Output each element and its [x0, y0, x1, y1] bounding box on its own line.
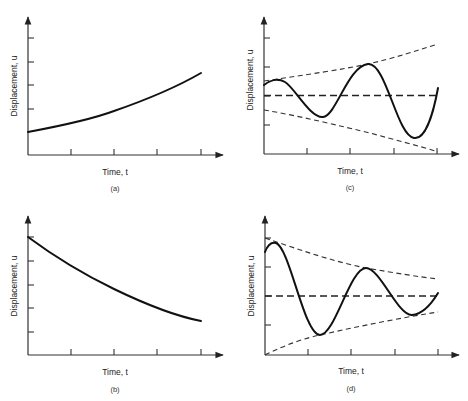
y-axis-label: Displacement, u [9, 55, 19, 116]
panel-c: Time, t (c) Displacement, u [245, 17, 459, 192]
panel-caption: (d) [346, 384, 356, 393]
x-axis-label: Time, t [338, 366, 364, 376]
panel-caption: (a) [110, 184, 120, 193]
x-ticks [71, 349, 201, 355]
lower-envelope [264, 110, 438, 152]
x-ticks [71, 149, 201, 155]
y-ticks [28, 38, 34, 109]
x-ticks [308, 349, 438, 355]
displacement-curve [28, 73, 201, 132]
x-axis-label: Time, t [102, 367, 128, 377]
displacement-curve [265, 243, 438, 335]
panel-a: Time, t (a) Displacement, u [9, 17, 223, 193]
y-axis-label: Displacement, u [9, 255, 19, 316]
y-ticks [28, 237, 34, 332]
displacement-curve [28, 237, 201, 321]
panel-caption: (b) [110, 385, 120, 394]
figure-canvas: Time, t (a) Displacement, u Time, t (c) … [0, 0, 468, 401]
x-ticks [307, 148, 437, 154]
y-axis-label: Displacement, u [246, 255, 256, 316]
panel-d: Time, t (d) Displacement, u [246, 216, 459, 393]
panel-b: Time, t (b) Displacement, u [9, 216, 223, 394]
x-axis-label: Time, t [337, 166, 363, 176]
x-axis-label: Time, t [102, 167, 128, 177]
panel-caption: (c) [346, 183, 355, 192]
upper-envelope [264, 44, 438, 81]
displacement-curve [264, 64, 438, 138]
y-axis-label: Displacement, u [245, 49, 255, 110]
lower-envelope [265, 312, 438, 355]
